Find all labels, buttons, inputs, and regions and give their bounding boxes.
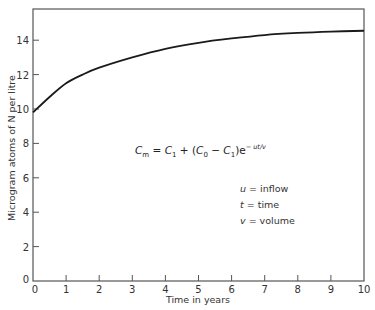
x-tick-label: 7 <box>262 284 268 295</box>
y-tick-label: 14 <box>16 35 29 46</box>
legend-item-time: t = time <box>240 197 295 213</box>
y-tick-label: 6 <box>23 173 29 184</box>
y-tick-label: 12 <box>16 70 29 81</box>
x-tick-label: 2 <box>96 284 102 295</box>
x-tick-label: 10 <box>358 284 371 295</box>
x-tick-label: 0 <box>32 284 38 295</box>
variable-legend: u = inflow t = time v = volume <box>240 181 295 229</box>
equation-annotation: Cm = C1 + (C0 − C1)e− ut/v <box>135 143 266 159</box>
y-tick-label: 0 <box>23 274 29 285</box>
y-tick-label: 4 <box>23 207 29 218</box>
y-tick-label: 10 <box>16 104 29 115</box>
y-tick-label: 2 <box>23 242 29 253</box>
x-tick-label: 8 <box>295 284 301 295</box>
x-axis-ticks: 012345678910 <box>32 275 371 295</box>
y-axis-title: Microgram atoms of N per litre <box>6 75 17 221</box>
legend-item-volume: v = volume <box>240 213 295 229</box>
concentration-curve <box>33 31 364 113</box>
x-tick-label: 1 <box>63 284 69 295</box>
x-tick-label: 3 <box>129 284 135 295</box>
y-axis-ticks: 02468101214 <box>16 35 39 285</box>
legend-item-inflow: u = inflow <box>240 181 295 197</box>
y-tick-label: 8 <box>23 138 29 149</box>
x-axis-title: Time in years <box>165 294 230 305</box>
x-tick-label: 9 <box>328 284 334 295</box>
